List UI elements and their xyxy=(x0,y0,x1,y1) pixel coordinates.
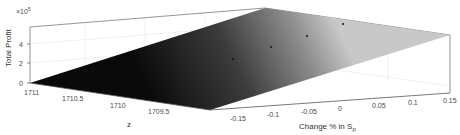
y-tick-1710: 1710 xyxy=(110,102,126,109)
y-tick-1710-5: 1710.5 xyxy=(62,95,84,102)
y-axis-label: z xyxy=(127,120,131,129)
z-axis-label: Total Profit xyxy=(4,28,13,67)
z-axis: 0 2 4 ×105 Total Profit xyxy=(4,6,31,87)
surface-plot-3d: 0 2 4 ×105 Total Profit 1711 1710.5 1710… xyxy=(0,0,460,135)
x-tick-neg015: -0.15 xyxy=(230,115,246,122)
x-axis-label: Change % in Sp xyxy=(299,122,356,132)
z-tick-0: 0 xyxy=(19,80,23,87)
y-tick-1711: 1711 xyxy=(24,89,39,96)
z-tick-4: 4 xyxy=(19,41,23,48)
x-tick-neg01: -0.1 xyxy=(267,111,279,118)
x-tick-0: 0 xyxy=(338,105,342,112)
z-exponent: ×105 xyxy=(16,6,31,15)
x-tick-01: 0.1 xyxy=(408,99,418,106)
profit-surface xyxy=(30,8,450,110)
x-tick-neg005: -0.05 xyxy=(301,108,317,115)
z-tick-2: 2 xyxy=(19,60,23,67)
x-tick-015: 0.15 xyxy=(443,97,457,104)
x-tick-005: 0.05 xyxy=(372,102,386,109)
y-tick-1709-5: 1709.5 xyxy=(148,108,170,115)
x-axis: -0.15 -0.1 -0.05 0 0.05 0.1 0.15 Change … xyxy=(230,97,457,132)
